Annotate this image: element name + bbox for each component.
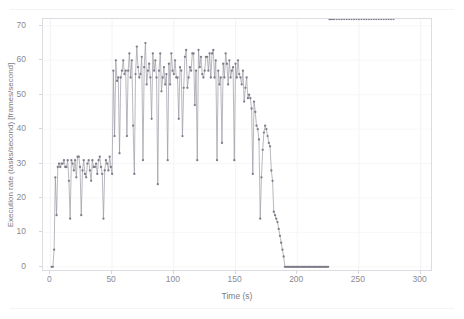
data-point — [154, 59, 156, 61]
data-point — [264, 125, 266, 127]
x-tick-label: 300 — [400, 275, 440, 284]
data-point — [63, 159, 65, 161]
data-point — [283, 255, 285, 257]
data-point — [206, 56, 208, 58]
x-tick-mark — [358, 271, 359, 274]
data-point — [250, 107, 252, 109]
data-point — [390, 19, 392, 20]
data-point — [199, 66, 201, 68]
data-point — [265, 128, 267, 130]
plot-area — [42, 18, 432, 271]
data-point — [131, 59, 133, 61]
data-point — [54, 176, 56, 178]
data-point — [107, 169, 109, 171]
data-point — [275, 218, 277, 220]
x-tick-label: 150 — [215, 275, 255, 284]
y-tick-mark — [39, 25, 42, 26]
data-point — [350, 19, 352, 20]
data-point — [213, 76, 215, 78]
x-tick-mark — [173, 271, 174, 274]
data-point — [181, 135, 183, 137]
data-point — [155, 76, 157, 78]
series-line-chart — [43, 19, 432, 271]
data-point — [174, 59, 176, 61]
data-point — [343, 19, 345, 20]
x-tick-mark — [296, 271, 297, 274]
data-point — [139, 73, 141, 75]
y-tick-mark — [39, 128, 42, 129]
series-polyline — [52, 43, 328, 267]
data-point — [52, 266, 54, 268]
data-point — [137, 66, 139, 68]
data-point — [142, 159, 144, 161]
data-point — [149, 76, 151, 78]
data-point — [231, 69, 233, 71]
data-point — [158, 69, 160, 71]
y-tick-label: 10 — [0, 227, 26, 236]
data-point — [100, 166, 102, 168]
data-point — [55, 214, 57, 216]
data-point — [269, 145, 271, 147]
data-point — [338, 19, 340, 20]
data-point — [99, 156, 101, 158]
data-point — [105, 159, 107, 161]
data-point — [194, 104, 196, 106]
data-point — [112, 69, 114, 71]
data-point — [102, 218, 104, 220]
data-point — [358, 19, 360, 20]
data-point — [353, 19, 355, 20]
data-point — [75, 176, 77, 178]
data-point — [152, 52, 154, 54]
data-point — [258, 138, 260, 140]
data-point — [183, 87, 185, 89]
data-point — [62, 162, 64, 164]
data-point — [211, 52, 213, 54]
data-point — [125, 69, 127, 71]
y-tick-label: 40 — [0, 124, 26, 133]
data-point — [385, 19, 387, 20]
figure-title-cropped: Execution rate over time — [0, 0, 464, 9]
data-point — [67, 159, 69, 161]
data-point — [327, 266, 329, 268]
data-point — [116, 80, 118, 82]
x-tick-mark — [235, 271, 236, 274]
data-point — [171, 69, 173, 71]
data-point — [363, 19, 365, 20]
data-point — [70, 159, 72, 161]
data-point — [241, 83, 243, 85]
data-point — [117, 76, 119, 78]
data-point — [392, 19, 394, 20]
data-point — [268, 142, 270, 144]
data-point — [150, 118, 152, 120]
data-point — [69, 218, 71, 220]
data-point — [129, 76, 131, 78]
data-point — [236, 76, 238, 78]
data-point — [184, 56, 186, 58]
data-point — [280, 242, 282, 244]
data-point — [196, 159, 198, 161]
data-point — [218, 83, 220, 85]
data-point — [180, 69, 182, 71]
x-tick-mark — [111, 271, 112, 274]
data-point — [91, 159, 93, 161]
data-point — [122, 59, 124, 61]
x-tick-label: 100 — [153, 275, 193, 284]
data-point — [365, 19, 367, 20]
data-point — [170, 52, 172, 54]
data-point — [375, 19, 377, 20]
data-point — [147, 69, 149, 71]
y-tick-mark — [39, 266, 42, 267]
y-tick-mark — [39, 163, 42, 164]
data-point — [207, 69, 209, 71]
data-point — [244, 87, 246, 89]
y-tick-label: 60 — [0, 55, 26, 64]
data-point — [89, 169, 91, 171]
chart-figure: Execution rate over time Execution rate … — [0, 0, 464, 319]
data-point — [178, 118, 180, 120]
data-point — [121, 69, 123, 71]
x-tick-mark — [420, 271, 421, 274]
x-tick-label: 0 — [29, 275, 69, 284]
data-point — [164, 83, 166, 85]
data-point — [242, 69, 244, 71]
y-tick-mark — [39, 59, 42, 60]
